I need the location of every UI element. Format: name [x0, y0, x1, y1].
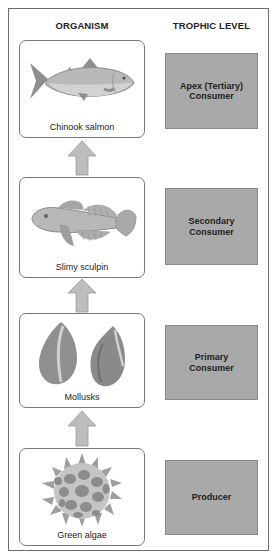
- trophic-box-producer: Producer: [165, 460, 258, 535]
- organism-card-slimy-sculpin: Slimy sculpin: [19, 177, 145, 278]
- organism-card-mollusks: Mollusks: [19, 313, 145, 408]
- organism-label: Chinook salmon: [20, 122, 144, 132]
- mollusk-shells-icon: [20, 320, 144, 390]
- trophic-box-apex-consumer: Apex (Tertiary) Consumer: [165, 53, 258, 129]
- organism-column-header: ORGANISM: [19, 20, 145, 31]
- organism-card-green-algae: Green algae: [19, 448, 145, 546]
- up-arrow-icon: [67, 410, 97, 447]
- organism-card-chinook-salmon: Chinook salmon: [19, 40, 145, 138]
- trophic-box-primary-consumer: Primary Consumer: [165, 325, 258, 400]
- up-arrow-icon: [67, 278, 97, 313]
- trophic-level-column-header: TROPHIC LEVEL: [160, 20, 263, 31]
- sculpin-icon: [20, 194, 144, 250]
- salmon-icon: [20, 55, 144, 109]
- organism-label: Slimy sculpin: [20, 262, 144, 272]
- green-algae-icon: [20, 453, 144, 527]
- up-arrow-icon: [67, 140, 97, 176]
- trophic-box-secondary-consumer: Secondary Consumer: [165, 188, 258, 265]
- organism-label: Mollusks: [20, 392, 144, 402]
- organism-label: Green algae: [20, 530, 144, 540]
